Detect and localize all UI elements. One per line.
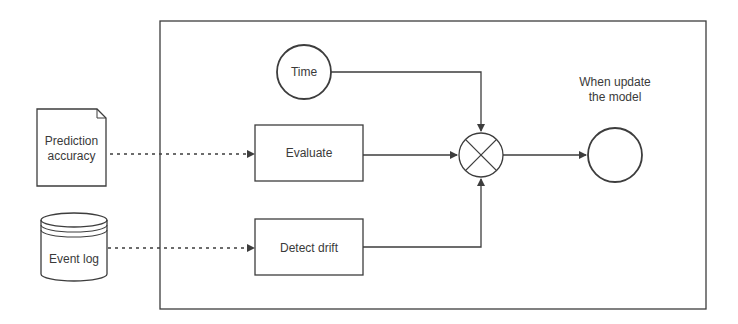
- database-top-icon: [41, 213, 107, 227]
- detect-drift-node[interactable]: Detect drift: [255, 219, 363, 275]
- evaluate-node[interactable]: Evaluate: [255, 125, 363, 181]
- database-icon: [41, 220, 107, 281]
- time-label: Time: [291, 65, 318, 79]
- output-label-1: When update: [579, 75, 651, 89]
- combiner-node[interactable]: [459, 133, 503, 177]
- prediction-accuracy-label-1: Prediction: [45, 134, 98, 148]
- edge-time-to-combiner: [331, 72, 481, 131]
- database-ring-2: [41, 230, 107, 237]
- time-node[interactable]: Time: [277, 45, 331, 99]
- event-log-label: Event log: [49, 252, 99, 266]
- detect-drift-label: Detect drift: [280, 241, 339, 255]
- edge-detect-to-combiner: [363, 179, 481, 247]
- diagram-canvas: Prediction accuracy Event log Time Evalu…: [0, 0, 738, 324]
- output-label-2: the model: [589, 90, 642, 104]
- prediction-accuracy-label-2: accuracy: [47, 149, 95, 163]
- output-node[interactable]: When update the model: [579, 75, 651, 182]
- evaluate-label: Evaluate: [286, 146, 333, 160]
- event-log-database[interactable]: Event log: [41, 213, 107, 281]
- process-container: [160, 21, 706, 309]
- database-ring-1: [41, 225, 107, 232]
- prediction-accuracy-document[interactable]: Prediction accuracy: [37, 109, 106, 186]
